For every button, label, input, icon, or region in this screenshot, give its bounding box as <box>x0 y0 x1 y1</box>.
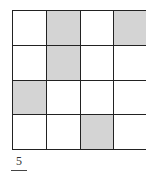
grid-cell <box>13 11 47 46</box>
grid-cell <box>114 81 146 116</box>
grid-cell <box>47 81 81 116</box>
grid-cell <box>114 115 146 150</box>
shaded-grid <box>12 10 146 150</box>
grid-cell <box>114 46 146 81</box>
grid-cell <box>81 46 115 81</box>
shaded-cell <box>47 11 81 46</box>
shaded-cell <box>47 46 81 81</box>
shaded-cell <box>81 115 115 150</box>
fraction-numerator: 5 <box>12 155 26 167</box>
grid-cell <box>47 115 81 150</box>
fraction-bar <box>11 170 27 171</box>
shaded-cell <box>114 11 146 46</box>
grid-cell <box>81 11 115 46</box>
grid-cell <box>81 81 115 116</box>
grid-cell <box>13 46 47 81</box>
shaded-cell <box>13 81 47 116</box>
grid-cell <box>13 115 47 150</box>
